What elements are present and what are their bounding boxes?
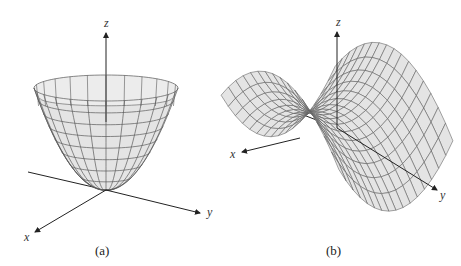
x-axis-label-a: x <box>24 230 29 245</box>
x-axis-label-b: x <box>230 147 235 162</box>
paraboloid-figure <box>28 33 200 232</box>
caption-a: (a) <box>95 243 109 259</box>
caption-b: (b) <box>326 243 341 259</box>
saddle-figure <box>221 32 453 211</box>
z-axis-label-b: z <box>336 15 341 30</box>
y-axis-label-a: y <box>207 205 212 220</box>
z-axis-label-a: z <box>104 16 109 31</box>
y-axis-label-b: y <box>440 188 445 203</box>
figure-canvas <box>0 0 461 266</box>
